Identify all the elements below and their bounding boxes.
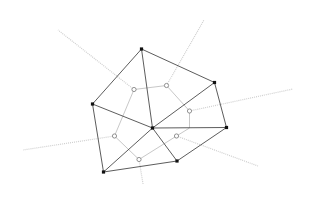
voronoi-edge [139, 136, 177, 160]
voronoi-vertex [187, 109, 191, 113]
site-point [91, 102, 94, 105]
delaunay-edge [215, 83, 227, 128]
voronoi-ray [177, 136, 259, 166]
delaunay-edge [93, 104, 153, 128]
site-point [151, 126, 154, 129]
voronoi-ray [190, 89, 294, 111]
site-point [140, 47, 143, 50]
voronoi-vertex [132, 87, 136, 91]
voronoi-edge [115, 136, 140, 160]
voronoi-vertex [164, 83, 168, 87]
voronoi-vertex [174, 134, 178, 138]
voronoi-rays [23, 20, 293, 184]
voronoi-ray [58, 30, 134, 90]
delaunay-voronoi-diagram [0, 0, 309, 205]
site-point [175, 159, 178, 162]
delaunay-edges [93, 49, 227, 172]
voronoi-vertex [112, 134, 116, 138]
delaunay-edge [153, 128, 227, 129]
voronoi-edge [177, 111, 190, 136]
delaunay-edge [93, 49, 142, 104]
site-point [225, 126, 228, 129]
voronoi-edge [167, 86, 190, 112]
voronoi-ray [23, 136, 115, 150]
voronoi-vertex [137, 157, 141, 161]
site-point [213, 81, 216, 84]
voronoi-edge [115, 90, 135, 137]
voronoi-ray [167, 20, 205, 86]
site-point [102, 170, 105, 173]
delaunay-edge [177, 128, 227, 162]
voronoi-ray [139, 160, 143, 185]
delaunay-edge [153, 83, 215, 129]
delaunay-sites [91, 47, 228, 173]
voronoi-edge [134, 86, 167, 90]
delaunay-edge [142, 49, 215, 83]
delaunay-edge [153, 128, 178, 161]
